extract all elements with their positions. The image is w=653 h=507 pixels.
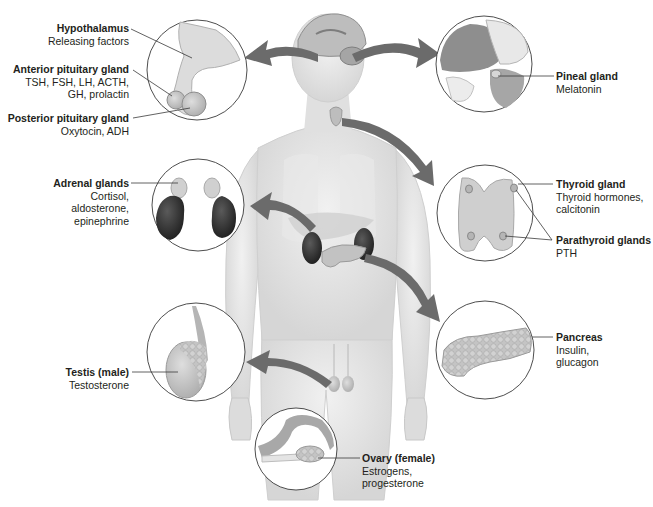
- label-title: Adrenal glands: [53, 177, 129, 190]
- label-hormones: Cortisol, aldosterone, epinephrine: [53, 190, 129, 228]
- label-hormones: Releasing factors: [48, 35, 129, 48]
- label-hormones: Oxytocin, ADH: [8, 125, 129, 138]
- ovary-inset: [255, 408, 337, 490]
- label-title: Pineal gland: [556, 70, 618, 83]
- testis-inset: [147, 303, 245, 401]
- label-title: Testis (male): [66, 366, 129, 379]
- pineal-inset: [436, 16, 532, 112]
- label-hypothalamus: Hypothalamus Releasing factors: [48, 22, 129, 47]
- label-hormones: Insulin, glucagon: [556, 344, 603, 369]
- label-title: Parathyroid glands: [556, 234, 651, 247]
- label-title: Pancreas: [556, 331, 603, 344]
- pancreas-inset: [436, 301, 534, 399]
- label-pancreas: Pancreas Insulin, glucagon: [556, 331, 603, 369]
- thyroid-inset: [437, 165, 533, 261]
- label-title: Posterior pituitary gland: [8, 112, 129, 125]
- label-adrenal: Adrenal glands Cortisol, aldosterone, ep…: [53, 177, 129, 227]
- adrenal-inset: [152, 159, 244, 251]
- label-title: Hypothalamus: [48, 22, 129, 35]
- label-title: Thyroid gland: [556, 178, 644, 191]
- label-hormones: Testosterone: [66, 379, 129, 392]
- label-hormones: Melatonin: [556, 83, 618, 96]
- label-hormones: PTH: [556, 247, 651, 260]
- label-parathyroid: Parathyroid glands PTH: [556, 234, 651, 259]
- label-testis: Testis (male) Testosterone: [66, 366, 129, 391]
- label-title: Ovary (female): [362, 452, 435, 465]
- label-pineal: Pineal gland Melatonin: [556, 70, 618, 95]
- label-posterior-pituitary: Posterior pituitary gland Oxytocin, ADH: [8, 112, 129, 137]
- label-title: Anterior pituitary gland: [13, 63, 129, 76]
- pituitary-inset: [147, 20, 247, 120]
- label-hormones: Estrogens, progesterone: [362, 465, 435, 490]
- label-ovary: Ovary (female) Estrogens, progesterone: [362, 452, 435, 490]
- label-thyroid: Thyroid gland Thyroid hormones, calciton…: [556, 178, 644, 216]
- label-hormones: Thyroid hormones, calcitonin: [556, 191, 644, 216]
- label-anterior-pituitary: Anterior pituitary gland TSH, FSH, LH, A…: [13, 63, 129, 101]
- endocrine-diagram: Hypothalamus Releasing factors Anterior …: [0, 0, 653, 507]
- label-hormones: TSH, FSH, LH, ACTH, GH, prolactin: [13, 76, 129, 101]
